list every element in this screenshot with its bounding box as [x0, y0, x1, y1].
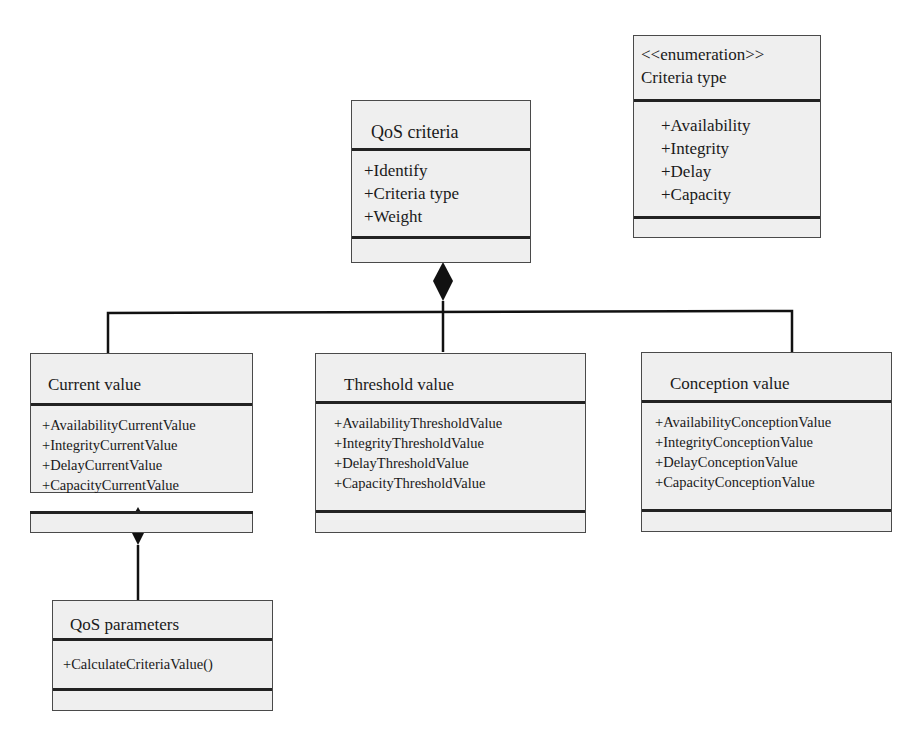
class-header: <<enumeration>> Criteria type [634, 36, 820, 102]
composition-diamond-qos-criteria [433, 262, 453, 301]
attributes-compartment: +AvailabilityConceptionValue +IntegrityC… [642, 403, 891, 512]
attribute: +Delay [661, 160, 820, 183]
class-threshold-value: Threshold value +AvailabilityThresholdVa… [315, 353, 586, 533]
attribute: +Availability [661, 114, 820, 137]
class-qos-criteria: QoS criteria +Identify +Criteria type +W… [351, 100, 531, 263]
class-qos-parameters: QoS parameters +CalculateCriteriaValue() [52, 600, 273, 711]
attribute: +Capacity [661, 183, 820, 206]
attribute: +DelayCurrentValue [42, 455, 252, 475]
class-name: Threshold value [344, 375, 454, 394]
class-conception-value: Conception value +AvailabilityConception… [641, 352, 892, 532]
operations-compartment [30, 514, 253, 533]
attribute: +CapacityConceptionValue [655, 472, 891, 492]
attribute: +CalculateCriteriaValue() [63, 654, 272, 674]
attribute: +AvailabilityConceptionValue [655, 412, 891, 432]
class-name: QoS criteria [371, 122, 458, 142]
class-header: QoS criteria [352, 101, 530, 151]
class-header: Conception value [642, 353, 891, 403]
class-criteria-type: <<enumeration>> Criteria type +Availabil… [633, 35, 821, 238]
attribute: +Criteria type [364, 182, 530, 205]
attribute: +DelayConceptionValue [655, 452, 891, 472]
class-name: Criteria type [641, 66, 820, 89]
attribute: +DelayThresholdValue [334, 453, 585, 473]
attributes-compartment: +Availability +Integrity +Delay +Capacit… [634, 102, 820, 219]
attribute: +CapacityThresholdValue [334, 473, 585, 493]
attribute: +AvailabilityCurrentValue [42, 415, 252, 435]
attributes-compartment: +CalculateCriteriaValue() [53, 641, 272, 691]
attribute: +AvailabilityThresholdValue [334, 413, 585, 433]
class-header: QoS parameters [53, 601, 272, 641]
attribute: +Weight [364, 205, 530, 228]
attributes-compartment: +Identify +Criteria type +Weight [352, 151, 530, 239]
attribute: +IntegrityConceptionValue [655, 432, 891, 452]
attribute: +IntegrityThresholdValue [334, 433, 585, 453]
class-name: Current value [48, 375, 141, 394]
stereotype-label: <<enumeration>> [641, 43, 820, 66]
class-name: Conception value [670, 374, 789, 393]
attribute: +CapacityCurrentValue [42, 475, 252, 495]
attributes-compartment: +AvailabilityCurrentValue +IntegrityCurr… [31, 406, 252, 516]
connector-bus [108, 311, 792, 353]
attributes-compartment: +AvailabilityThresholdValue +IntegrityTh… [316, 404, 585, 513]
class-header: Current value [31, 354, 252, 406]
class-name: QoS parameters [70, 615, 179, 634]
attribute: +Identify [364, 159, 530, 182]
attribute: +IntegrityCurrentValue [42, 435, 252, 455]
attribute: +Integrity [661, 137, 820, 160]
class-header: Threshold value [316, 354, 585, 404]
class-current-value: Current value +AvailabilityCurrentValue … [30, 353, 253, 493]
